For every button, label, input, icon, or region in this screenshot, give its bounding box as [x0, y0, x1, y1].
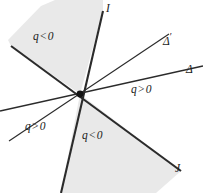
region-label-right: q>0 — [131, 84, 152, 96]
shaded-wedge-bottom — [61, 94, 181, 193]
operator-right: > — [137, 83, 146, 95]
line-delta — [0, 66, 203, 111]
line-label-delta-prime: Δ′ — [163, 32, 172, 47]
figure-container: I Δ′ Δ J q<0 q>0 q>0 q<0 — [0, 0, 203, 193]
line-label-delta: Δ — [186, 64, 193, 76]
operator-bottom: < — [88, 129, 97, 141]
operator-top-left: < — [39, 30, 48, 42]
line-label-I: I — [106, 3, 110, 15]
prime-mark: ′ — [170, 31, 172, 42]
region-label-bottom: q<0 — [82, 130, 103, 142]
value-right: 0 — [146, 83, 152, 95]
operator-bottom-left: > — [31, 120, 40, 132]
figure-canvas — [0, 0, 203, 193]
region-label-bottom-left: q>0 — [25, 121, 46, 133]
line-label-J: J — [175, 163, 180, 175]
delta-prime-glyph: Δ — [163, 35, 170, 47]
value-bottom: 0 — [97, 129, 103, 141]
value-bottom-left: 0 — [40, 120, 46, 132]
origin-point — [77, 91, 84, 98]
value-top-left: 0 — [48, 30, 54, 42]
region-label-top-left: q<0 — [33, 31, 54, 43]
